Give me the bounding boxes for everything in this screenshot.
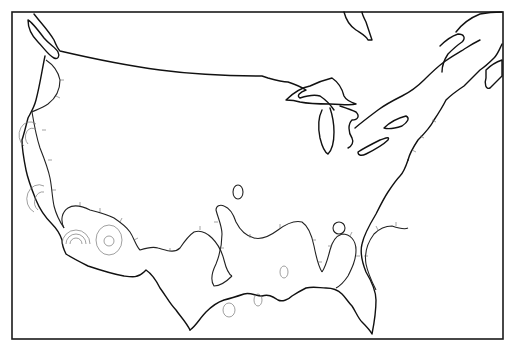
st-lawrence-coast [355, 40, 480, 128]
concentric-cluster-arizona [96, 225, 122, 255]
concentric-cluster-southern-california [62, 230, 90, 244]
map-container [0, 0, 520, 356]
lake-erie [358, 138, 389, 156]
lake-michigan [319, 108, 334, 154]
labrador-coast [456, 12, 502, 32]
hachure-ticks [42, 80, 436, 262]
us-contour-map [0, 0, 520, 356]
texas-lobe-contour [212, 205, 322, 286]
closed-contour-oklahoma [233, 185, 243, 199]
gaspe-peninsula [440, 34, 464, 72]
atlantic-contour [365, 226, 408, 290]
pacific-coastline [22, 56, 190, 330]
mississippi-lobe-contour [322, 234, 356, 288]
atlantic-coastline [408, 44, 502, 160]
canada-border [34, 14, 334, 110]
closed-contour-south-texas [223, 303, 235, 317]
concentric-cluster-central-california [27, 185, 44, 212]
lake-ontario [384, 116, 408, 129]
gulf-coastline [190, 160, 408, 334]
map-frame [12, 12, 503, 339]
closed-contour-louisiana [280, 266, 288, 278]
closed-contour-alabama-north [333, 222, 345, 234]
lake-superior [286, 78, 356, 105]
james-bay [344, 12, 372, 40]
